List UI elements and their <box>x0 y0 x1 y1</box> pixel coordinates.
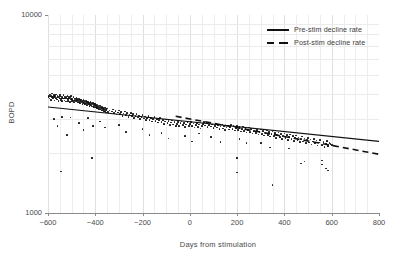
y-tick <box>45 213 48 214</box>
x-tick <box>237 213 238 216</box>
x-tick <box>143 213 144 216</box>
solid-line-swatch-icon <box>267 25 289 34</box>
x-tick-label: 200 <box>217 218 257 227</box>
y-tick-label: 1000 <box>8 208 42 217</box>
post-stim-trend-line <box>176 116 379 154</box>
x-axis-title: Days from stimulation <box>148 240 288 249</box>
legend-label-pre-stim: Pre-stim decline rate <box>294 25 362 34</box>
x-tick <box>332 213 333 216</box>
x-tick-label: 800 <box>359 218 399 227</box>
x-tick <box>284 213 285 216</box>
x-tick <box>95 213 96 216</box>
chart-figure: BOPD −600−400−2000200400600800100010000 … <box>0 0 409 260</box>
x-tick-label: 400 <box>264 218 304 227</box>
x-tick <box>379 213 380 216</box>
dashed-line-swatch-icon <box>267 38 289 47</box>
x-tick-label: 0 <box>170 218 210 227</box>
legend-item-post-stim: Post-stim decline rate <box>267 37 402 48</box>
x-tick <box>48 213 49 216</box>
legend-label-post-stim: Post-stim decline rate <box>294 38 365 47</box>
x-tick-label: −600 <box>28 218 68 227</box>
y-axis-title: BOPD <box>7 83 16 143</box>
legend-item-pre-stim: Pre-stim decline rate <box>267 24 402 35</box>
y-tick <box>45 15 48 16</box>
chart-legend: Pre-stim decline rate Post-stim decline … <box>267 24 402 50</box>
x-tick-label: −400 <box>75 218 115 227</box>
y-tick-label: 10000 <box>8 10 42 19</box>
x-axis-line <box>48 213 379 214</box>
pre-stim-trend-line <box>48 107 379 141</box>
x-tick-label: −200 <box>123 218 163 227</box>
x-tick <box>190 213 191 216</box>
x-tick-label: 600 <box>312 218 352 227</box>
